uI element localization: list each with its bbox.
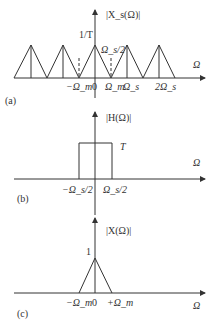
- tick-b-0: −Ω_s/2: [62, 184, 93, 195]
- ylabel-c: |X(Ω)|: [106, 225, 131, 237]
- xlabel-a: Ω: [193, 59, 200, 70]
- tick-c-0: −Ω_m: [66, 297, 92, 308]
- tick-a-1: 0: [92, 81, 97, 92]
- tick-c-1: 0: [92, 297, 97, 308]
- spectrum-diagram: |X_s(Ω)| 1/T Ω_s/2 Ω −Ω_m 0 Ω_m Ω_s 2Ω_s…: [0, 0, 216, 328]
- tag-a: (a): [5, 95, 16, 107]
- tick-a-3: Ω_s: [123, 81, 139, 92]
- xlabel-c: Ω: [193, 300, 200, 311]
- xlabel-b: Ω: [193, 157, 200, 168]
- peak-label-c: 1: [86, 246, 91, 257]
- tick-a-0: −Ω_m: [66, 81, 92, 92]
- tag-c: (c): [17, 308, 28, 320]
- peak-label-a: 1/T: [79, 29, 93, 40]
- tag-b: (b): [17, 193, 29, 205]
- cutoff-label-a: Ω_s/2: [101, 44, 125, 55]
- panel-b: [14, 112, 205, 215]
- tick-c-2: +Ω_m: [107, 297, 133, 308]
- tick-a-2: Ω_m: [105, 81, 124, 92]
- level-label-b: T: [120, 141, 127, 152]
- ylabel-b: |H(Ω)|: [106, 112, 131, 124]
- tick-a-4: 2Ω_s: [155, 81, 176, 92]
- tick-b-1: Ω_s/2: [103, 184, 127, 195]
- ylabel-a: |X_s(Ω)|: [106, 9, 140, 21]
